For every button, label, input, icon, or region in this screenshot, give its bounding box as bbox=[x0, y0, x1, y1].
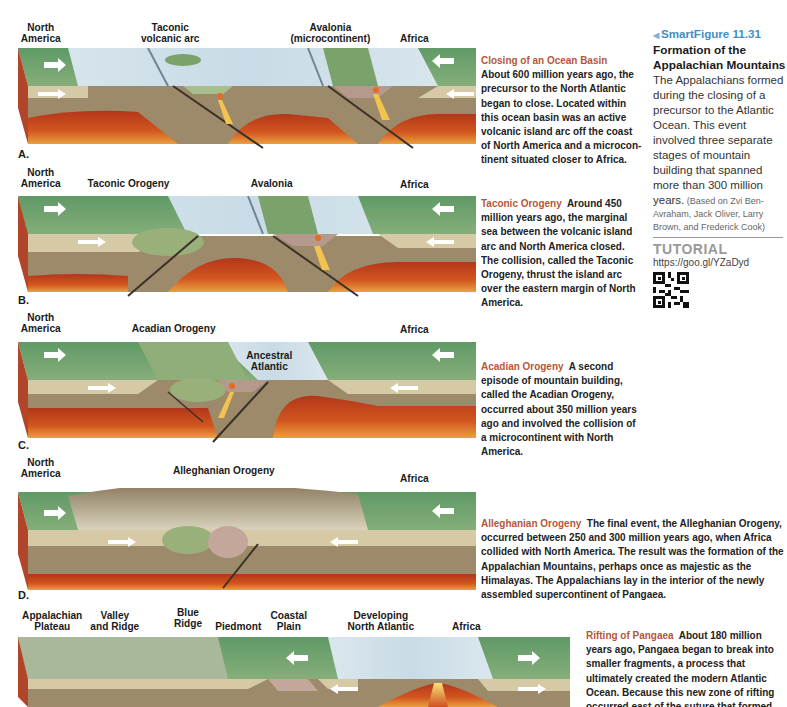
figure-title: Formation of the Appalachian Mountains bbox=[653, 43, 787, 73]
cross-section-a bbox=[18, 48, 476, 156]
desc-line: About 180 million bbox=[679, 628, 762, 641]
figure-title-line: Formation of the bbox=[653, 43, 787, 58]
desc-line: America. bbox=[481, 295, 636, 309]
desc-line: volcanic island arc off the coast bbox=[481, 124, 641, 138]
desc-line: over the eastern margin of North bbox=[481, 281, 636, 295]
desc-line: of North America and a microcon- bbox=[481, 138, 641, 152]
block-diagram-c: Ancestral Atlantic bbox=[18, 342, 476, 450]
heading-rifting-of-pangaea: Rifting of Pangaea bbox=[586, 628, 674, 641]
block-diagram-a bbox=[18, 48, 476, 156]
desc-line: Around 450 bbox=[567, 196, 622, 209]
desc-line: collided with North America. The result … bbox=[481, 544, 784, 558]
figure-caption-body: The Appalachians formed during the closi… bbox=[653, 73, 787, 234]
caption-line: more than 300 million bbox=[653, 178, 787, 193]
label-africa-a: Africa bbox=[400, 33, 429, 44]
label-avalonia: Avalonia bbox=[251, 178, 293, 189]
label-north-america-a: North America bbox=[21, 22, 61, 44]
desc-line: ago and involved the collision of bbox=[481, 416, 637, 430]
heading-acadian-orogeny: Acadian Orogeny bbox=[481, 359, 564, 372]
heading-alleghanian-orogeny: Alleghanian Orogeny bbox=[481, 516, 581, 529]
label-valley-and-ridge: Valley and Ridge bbox=[90, 610, 139, 632]
desc-line: About 600 million years ago, the bbox=[481, 67, 641, 81]
label-coastal-plain: Coastal Plain bbox=[270, 610, 307, 632]
desc-line: million years ago, the marginal bbox=[481, 210, 636, 224]
description-a: Closing of an Ocean Basin About 600 mill… bbox=[481, 53, 667, 167]
caption-line: building that spanned bbox=[653, 163, 787, 178]
label-developing-north-atlantic: Developing North Atlantic bbox=[348, 610, 415, 632]
desc-line: arc and North America closed. bbox=[481, 239, 636, 253]
desc-line: The final event, the Alleghanian Orogeny… bbox=[587, 516, 782, 529]
desc-line: occurred between 250 and 300 million yea… bbox=[481, 530, 784, 544]
label-africa-b: Africa bbox=[400, 179, 429, 190]
desc-line: occurred about 350 million years bbox=[481, 402, 637, 416]
desc-line: called the Acadian Orogeny, bbox=[481, 387, 637, 401]
figure-title-line: Appalachian Mountains bbox=[653, 58, 787, 73]
caption-line: The Appalachians formed bbox=[653, 73, 787, 88]
panel-letter-c: C. bbox=[18, 439, 29, 451]
cross-section-b bbox=[18, 196, 476, 304]
block-diagram-b bbox=[18, 196, 476, 304]
panel-letter-d: D. bbox=[18, 589, 29, 601]
label-blue-ridge: Blue Ridge bbox=[174, 607, 202, 629]
label-avalonia-microcontinent: Avalonia (microcontinent) bbox=[290, 22, 370, 44]
credit-text: Brown, and Frederick Cook) bbox=[653, 221, 787, 234]
smartfigure-link[interactable]: ◀SmartFigure 11.31 bbox=[653, 26, 787, 43]
desc-line: episode of mountain building, bbox=[481, 373, 637, 387]
smartfigure-label: SmartFigure 11.31 bbox=[661, 27, 761, 40]
divider bbox=[653, 237, 783, 238]
desc-line: years ago, Pangaea began to break into bbox=[586, 642, 774, 656]
panel-letter-a: A. bbox=[18, 148, 29, 160]
caption-line: precursor to the Atlantic bbox=[653, 103, 787, 118]
description-b: Taconic Orogeny Around 450 million years… bbox=[481, 196, 661, 310]
credit-text: Avraham, Jack Oliver, Larry bbox=[653, 208, 787, 221]
desc-line: smaller fragments, a process that bbox=[586, 656, 774, 670]
label-north-america-c: North America bbox=[21, 312, 61, 334]
desc-line: sea between the volcanic island bbox=[481, 224, 636, 238]
caption-line: years. bbox=[653, 194, 684, 206]
desc-line: Himalayas. The Appalachians lay in the i… bbox=[481, 573, 784, 587]
tutorial-url-link[interactable]: https://goo.gl/YZaDyd bbox=[653, 257, 787, 269]
desc-line: this ocean basin was an active bbox=[481, 110, 641, 124]
credit-text: (Based on Zvi Ben- bbox=[684, 196, 764, 206]
desc-line: began to close. Located within bbox=[481, 96, 641, 110]
desc-line: ultimately created the modern Atlantic bbox=[586, 671, 774, 685]
desc-line: assembled supercontinent of Pangaea. bbox=[481, 587, 784, 601]
label-north-america-b: North America bbox=[21, 167, 61, 189]
heading-taconic-orogeny: Taconic Orogeny bbox=[481, 196, 562, 209]
caption-line: during the closing of a bbox=[653, 88, 787, 103]
desc-line: tinent situated closer to Africa. bbox=[481, 152, 641, 166]
desc-line: occurred east of the suture that formed bbox=[586, 699, 774, 707]
block-diagram-d bbox=[18, 488, 476, 596]
label-piedmont: Piedmont bbox=[215, 621, 261, 632]
panel-letter-b: B. bbox=[18, 294, 29, 306]
qr-code-icon[interactable] bbox=[653, 272, 689, 308]
description-e: Rifting of Pangaea About 180 million yea… bbox=[586, 628, 787, 707]
description-d: Alleghanian Orogeny The final event, the… bbox=[481, 516, 787, 601]
cross-section-e bbox=[18, 637, 570, 707]
label-africa-e: Africa bbox=[452, 621, 481, 632]
figure-caption-sidebar: ◀SmartFigure 11.31 Formation of the Appa… bbox=[653, 26, 787, 312]
label-north-america-d: North America bbox=[21, 457, 61, 479]
label-taconic-orogeny: Taconic Orogeny bbox=[88, 178, 170, 189]
label-acadian-orogeny: Acadian Orogeny bbox=[132, 323, 216, 334]
label-africa-c: Africa bbox=[400, 324, 429, 335]
desc-line: A second bbox=[569, 359, 614, 372]
label-taconic-volcanic-arc: Taconic volcanic arc bbox=[141, 22, 200, 44]
play-triangle-icon: ◀ bbox=[653, 31, 659, 40]
desc-line: Ocean. Because this new zone of rifting bbox=[586, 685, 774, 699]
label-appalachian-plateau: Appalachian Plateau bbox=[22, 610, 82, 632]
desc-line: a microcontinent with North bbox=[481, 430, 637, 444]
label-ancestral-atlantic: Ancestral Atlantic bbox=[246, 350, 292, 372]
label-africa-d: Africa bbox=[400, 473, 429, 484]
cross-section-d bbox=[18, 488, 476, 596]
desc-line: Appalachian Mountains, perhaps once as m… bbox=[481, 559, 784, 573]
block-diagram-e bbox=[18, 637, 570, 707]
desc-line: Orogeny, thrust the island arc bbox=[481, 267, 636, 281]
caption-line: stages of mountain bbox=[653, 148, 787, 163]
desc-line: precursor to the North Atlantic bbox=[481, 81, 641, 95]
description-c: Acadian Orogeny A second episode of moun… bbox=[481, 359, 662, 458]
heading-closing-ocean-basin: Closing of an Ocean Basin bbox=[481, 53, 641, 67]
caption-line: involved three separate bbox=[653, 133, 787, 148]
desc-line: The collision, called the Taconic bbox=[481, 253, 636, 267]
desc-line: America. bbox=[481, 444, 637, 458]
